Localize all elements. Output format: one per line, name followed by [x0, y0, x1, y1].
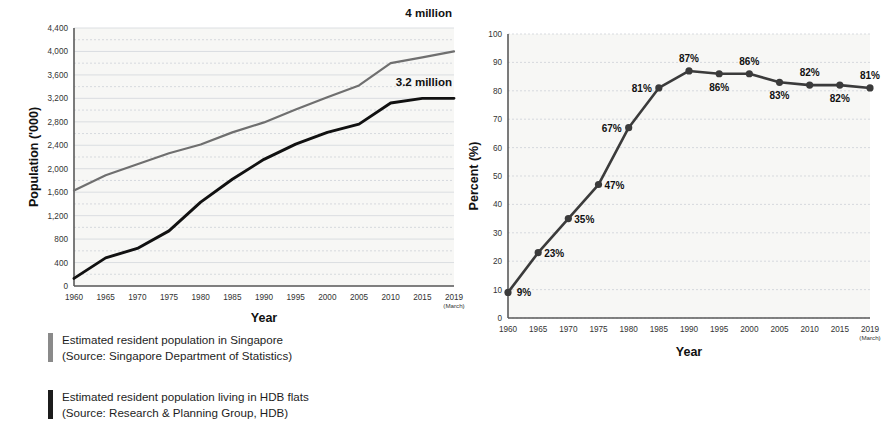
data-point-label: 67% — [602, 123, 622, 134]
data-point — [565, 215, 572, 222]
data-point — [806, 82, 813, 89]
x-tick-label: 1965 — [529, 325, 548, 334]
y-tick-label: 20 — [493, 257, 503, 266]
legend-label-line2: (Source: Singapore Department of Statist… — [62, 348, 292, 364]
x-tick-label: 1985 — [223, 293, 242, 302]
x-tick-label: 2015 — [831, 325, 850, 334]
data-point — [716, 70, 723, 77]
population-chart-panel: 04008001,2001,6002,0002,4002,8003,2003,6… — [0, 0, 466, 447]
x-tick-label: 1990 — [680, 325, 699, 334]
data-point — [535, 249, 542, 256]
y-tick-label: 2,800 — [48, 118, 69, 127]
x-axis-title: Year — [251, 311, 278, 325]
x-tick-sublabel: (March) — [443, 302, 464, 309]
y-tick-label: 0 — [497, 314, 502, 323]
percentage-chart-svg: 0102030405060708090100196019651970197519… — [466, 18, 886, 368]
y-tick-label: 100 — [488, 30, 502, 39]
y-tick-label: 50 — [493, 172, 503, 181]
y-tick-label: 4,000 — [48, 47, 69, 56]
data-point-label: 35% — [574, 214, 594, 225]
x-tick-label: 1975 — [589, 325, 608, 334]
x-tick-sublabel: (March) — [859, 334, 880, 341]
x-tick-label: 2000 — [318, 293, 337, 302]
data-point — [625, 124, 632, 131]
y-tick-label: 800 — [54, 235, 68, 244]
x-tick-label: 1975 — [160, 293, 179, 302]
y-tick-label: 1,600 — [48, 188, 69, 197]
x-tick-label: 2010 — [382, 293, 401, 302]
x-tick-label: 2005 — [770, 325, 789, 334]
y-tick-label: 3,200 — [48, 94, 69, 103]
x-tick-label: 1960 — [499, 325, 518, 334]
y-tick-label: 80 — [493, 87, 503, 96]
population-chart: 04008001,2001,6002,0002,4002,8003,2003,6… — [22, 14, 462, 324]
x-tick-label: 2019 — [861, 325, 880, 334]
data-point — [685, 67, 692, 74]
data-point-label: 83% — [769, 90, 789, 101]
legend-marker-gray — [48, 333, 53, 362]
y-tick-label: 2,400 — [48, 141, 69, 150]
x-tick-label: 1995 — [710, 325, 729, 334]
percentage-chart-panel: 0102030405060708090100196019651970197519… — [466, 0, 893, 447]
figure-page: 04008001,2001,6002,0002,4002,8003,2003,6… — [0, 0, 893, 447]
legend-label-line1: Estimated resident population in Singapo… — [62, 333, 283, 346]
data-point-label: 87% — [679, 53, 699, 64]
y-tick-label: 0 — [63, 282, 68, 291]
annotation-4-million: 4 million — [405, 7, 452, 19]
data-point-label: 86% — [709, 82, 729, 93]
data-point-label: 82% — [800, 67, 820, 78]
annotation-3-2-million: 3.2 million — [396, 76, 452, 88]
data-point — [746, 70, 753, 77]
data-point — [836, 82, 843, 89]
x-tick-label: 2019 — [445, 293, 464, 302]
x-tick-label: 2005 — [350, 293, 369, 302]
data-point — [655, 84, 662, 91]
x-tick-label: 1970 — [559, 325, 578, 334]
x-tick-label: 1980 — [192, 293, 211, 302]
x-tick-label: 2000 — [740, 325, 759, 334]
y-tick-label: 4,400 — [48, 24, 69, 33]
y-tick-label: 10 — [493, 286, 503, 295]
x-tick-label: 2010 — [801, 325, 820, 334]
y-tick-label: 30 — [493, 229, 503, 238]
y-tick-label: 400 — [54, 259, 68, 268]
x-axis-title: Year — [676, 345, 703, 359]
x-tick-label: 1980 — [620, 325, 639, 334]
data-point-label: 82% — [830, 93, 850, 104]
y-tick-label: 90 — [493, 58, 503, 67]
population-chart-svg: 04008001,2001,6002,0002,4002,8003,2003,6… — [22, 14, 462, 324]
data-point-label: 86% — [739, 56, 759, 67]
percentage-chart: 0102030405060708090100196019651970197519… — [466, 18, 886, 368]
y-tick-label: 60 — [493, 144, 503, 153]
y-tick-label: 2,000 — [48, 165, 69, 174]
x-tick-label: 1960 — [65, 293, 84, 302]
data-point-label: 23% — [544, 248, 564, 259]
data-point — [595, 181, 602, 188]
legend-label-line1: Estimated resident population living in … — [62, 390, 309, 403]
data-point-label: 81% — [860, 70, 880, 81]
y-tick-label: 1,200 — [48, 212, 69, 221]
data-point — [776, 79, 783, 86]
data-point — [504, 289, 511, 296]
legend-item-hdb-population: Estimated resident population living in … — [48, 389, 309, 420]
y-tick-label: 3,600 — [48, 71, 69, 80]
data-point-label: 9% — [517, 287, 532, 298]
y-tick-label: 40 — [493, 200, 503, 209]
data-point — [866, 84, 873, 91]
x-tick-label: 1965 — [97, 293, 116, 302]
legend-marker-black — [48, 390, 53, 419]
x-tick-label: 2015 — [413, 293, 432, 302]
y-tick-label: 70 — [493, 115, 503, 124]
x-tick-label: 1985 — [650, 325, 669, 334]
legend-label-line2: (Source: Research & Planning Group, HDB) — [62, 405, 309, 421]
x-tick-label: 1970 — [128, 293, 147, 302]
data-point-label: 81% — [632, 83, 652, 94]
x-tick-label: 1995 — [287, 293, 306, 302]
y-axis-title: Percent (%) — [467, 142, 481, 211]
legend-item-resident-population: Estimated resident population in Singapo… — [48, 332, 292, 363]
x-tick-label: 1990 — [255, 293, 274, 302]
data-point-label: 47% — [604, 180, 624, 191]
y-axis-title: Population ('000) — [27, 107, 41, 207]
